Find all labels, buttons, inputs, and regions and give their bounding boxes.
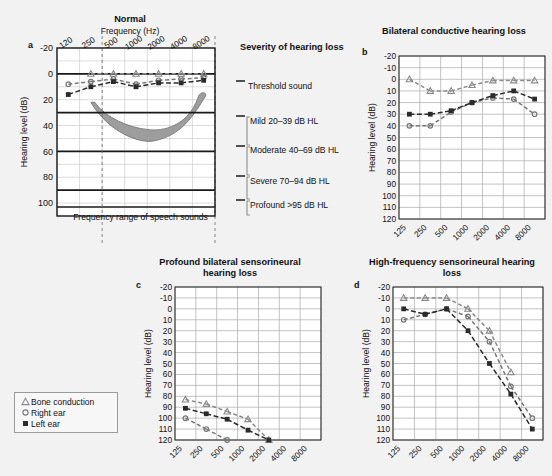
x-tick-label: 2000 — [471, 222, 491, 242]
y-tick-label: 10 — [381, 315, 391, 325]
x-tick-label: 2000 — [468, 443, 488, 463]
y-tick-label: 40 — [163, 348, 173, 358]
y-tick-label: 120 — [376, 435, 390, 445]
audiogram-figure: a Normal Frequency (Hz) -200204060801001… — [0, 0, 552, 476]
panel-d: d High-frequency sensorineural hearing l… — [340, 255, 552, 476]
y-tick-label: 110 — [377, 424, 391, 434]
square-point — [487, 361, 492, 366]
y-tick-label: 0 — [48, 69, 53, 79]
y-tick-label: 20 — [387, 98, 397, 108]
y-tick-label: 80 — [387, 167, 397, 177]
square-point — [225, 417, 230, 422]
legend-label-bone: Bone conduction — [31, 397, 94, 407]
page-watermark — [0, 442, 140, 472]
y-axis-label: Hearing level (dB) — [143, 329, 153, 398]
x-tick-label: 1000 — [446, 443, 466, 463]
square-point — [134, 84, 139, 89]
x-tick-label: 125 — [167, 443, 184, 460]
panel-a: a Normal Frequency (Hz) -200204060801001… — [0, 0, 250, 245]
y-tick-label: 60 — [387, 144, 397, 154]
square-point — [508, 392, 513, 397]
y-tick-label: 10 — [163, 315, 173, 325]
y-tick-label: 110 — [383, 202, 397, 212]
severity-band-profound: Profound >95 dB HL — [250, 200, 328, 210]
panel-c-plot: -20-100102030405060708090100110120125250… — [128, 279, 328, 474]
y-tick-label: 100 — [376, 413, 390, 423]
y-tick-label: 60 — [43, 147, 53, 157]
x-tick-label: 1000 — [226, 443, 246, 463]
x-tick-label: 4000 — [268, 443, 288, 463]
panel-a-title: Normal — [60, 14, 200, 25]
y-tick-label: 100 — [38, 198, 53, 208]
legend-box: Bone conduction Right ear Left ear — [14, 392, 118, 433]
square-point — [428, 112, 433, 117]
y-tick-label: 100 — [382, 191, 396, 201]
square-point — [201, 78, 206, 83]
y-tick-label: 50 — [381, 359, 391, 369]
severity-scale: Severity of hearing loss Threshold sound… — [236, 0, 361, 245]
y-tick-label: -10 — [160, 293, 172, 303]
x-tick-label: 8000 — [511, 443, 531, 463]
y-tick-label: -20 — [384, 51, 396, 61]
y-tick-label: 20 — [43, 95, 53, 105]
square-point — [266, 438, 271, 443]
y-tick-label: 90 — [387, 179, 397, 189]
legend-item-bone: Bone conduction — [19, 396, 111, 407]
square-point — [449, 108, 454, 113]
square-point — [407, 112, 412, 117]
legend-label-left: Left ear — [31, 419, 60, 429]
y-tick-label: 50 — [163, 359, 173, 369]
triangle-marker — [19, 396, 31, 407]
square-point — [111, 79, 116, 84]
y-tick-label: 0 — [385, 304, 390, 314]
square-point — [470, 100, 475, 105]
legend-label-right: Right ear — [31, 408, 66, 418]
y-tick-label: 70 — [387, 156, 397, 166]
y-tick-label: 40 — [381, 348, 391, 358]
x-tick-label: 500 — [209, 443, 226, 460]
y-tick-label: -20 — [40, 43, 53, 53]
y-tick-label: 60 — [163, 369, 173, 379]
square-point — [246, 428, 251, 433]
y-tick-label: 90 — [163, 402, 173, 412]
x-tick-label: 250 — [412, 222, 429, 239]
panel-c: c Profound bilateral sensorineural heari… — [128, 255, 328, 476]
x-tick-label: 4000 — [492, 222, 512, 242]
x-tick-label: 125 — [391, 222, 408, 239]
y-tick-label: -20 — [160, 282, 172, 292]
x-tick-label: 8000 — [289, 443, 309, 463]
severity-band-mild: Mild 20–39 dB HL — [250, 116, 318, 126]
severity-band-moderate: Moderate 40–69 dB HL — [250, 145, 339, 155]
panel-a-speech-annotation: Frequency range of speech sounds — [58, 212, 223, 223]
square-point — [532, 97, 537, 102]
y-tick-label: 20 — [381, 326, 391, 336]
y-tick-label: 20 — [163, 326, 173, 336]
y-tick-label: 80 — [163, 391, 173, 401]
legend-item-right: Right ear — [19, 407, 111, 418]
panel-d-title: High-frequency sensorineural hearing los… — [362, 257, 542, 279]
y-axis-label: Hearing level (dB) — [367, 103, 377, 172]
legend-item-left: Left ear — [19, 418, 111, 429]
x-tick-label: 4000 — [489, 443, 509, 463]
square-point — [466, 328, 471, 333]
y-tick-label: 40 — [387, 121, 397, 131]
panel-b: b Bilateral conductive hearing loss -20-… — [352, 0, 552, 255]
square-point — [530, 427, 535, 432]
y-tick-label: 70 — [381, 380, 391, 390]
y-tick-label: 40 — [43, 121, 53, 131]
y-tick-label: 30 — [387, 109, 397, 119]
y-tick-label: 70 — [163, 380, 173, 390]
y-tick-label: 120 — [382, 214, 396, 224]
y-tick-label: 0 — [167, 304, 172, 314]
y-tick-label: 60 — [381, 369, 391, 379]
square-point — [444, 306, 449, 311]
y-tick-label: 80 — [381, 391, 391, 401]
y-axis-label: Hearing level (dB) — [361, 329, 371, 398]
y-tick-label: 120 — [158, 435, 172, 445]
y-tick-label: -10 — [384, 63, 396, 73]
y-tick-label: 110 — [159, 424, 173, 434]
y-tick-label: 30 — [163, 337, 173, 347]
square-point — [423, 312, 428, 317]
square-marker — [19, 418, 31, 429]
y-tick-label: 10 — [387, 86, 397, 96]
